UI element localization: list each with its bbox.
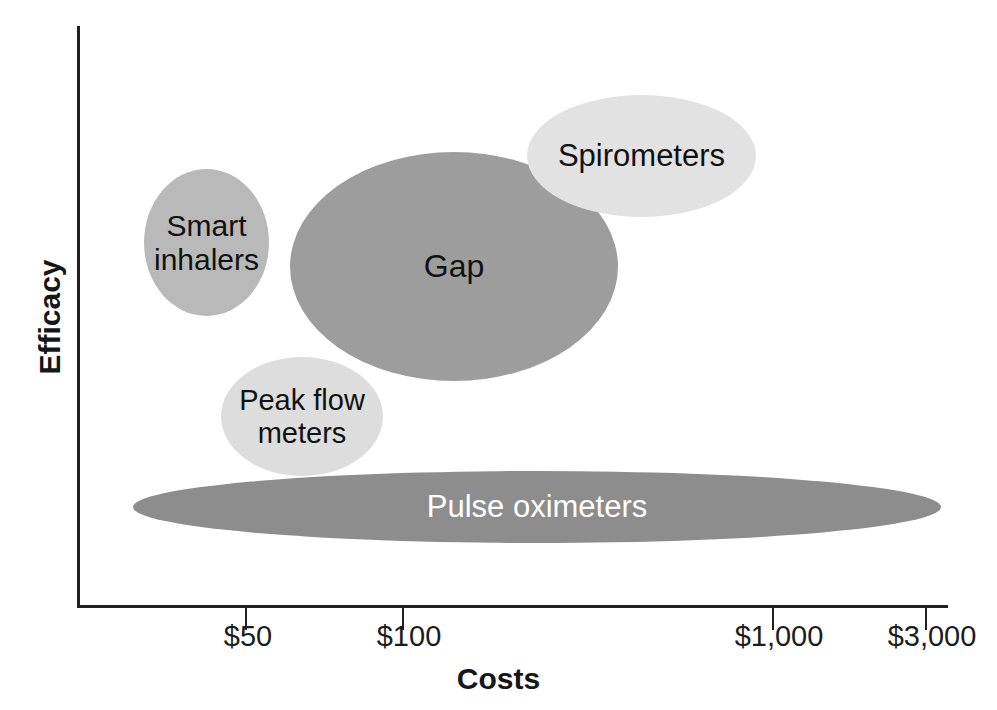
x-axis-line <box>77 605 948 608</box>
x-axis-tick-label-2: $100 <box>377 620 442 653</box>
bubble-spirometers: Spirometers <box>527 95 756 217</box>
x-axis-tick-label-4: $3,000 <box>888 620 977 653</box>
x-axis-title: Costs <box>0 662 997 696</box>
bubble-label-pulse-oximeters: Pulse oximeters <box>421 490 654 525</box>
bubble-label-smart-inhalers: Smart inhalers <box>148 209 265 276</box>
bubble-peak-flow-meters: Peak flow meters <box>221 357 383 476</box>
y-axis-title: Efficacy <box>33 207 67 427</box>
bubble-label-gap: Gap <box>418 249 490 285</box>
bubble-label-peak-flow-meters: Peak flow meters <box>233 384 371 449</box>
bubble-smart-inhalers: Smart inhalers <box>144 169 269 316</box>
x-axis-tick-label-1: $50 <box>224 620 272 653</box>
x-axis-tick-label-3: $1,000 <box>735 620 824 653</box>
y-axis-line <box>77 26 80 608</box>
bubble-chart: $50 $100 $1,000 $3,000 Costs Efficacy Pu… <box>0 0 997 710</box>
bubble-pulse-oximeters: Pulse oximeters <box>133 471 941 543</box>
bubble-label-spirometers: Spirometers <box>552 139 731 174</box>
